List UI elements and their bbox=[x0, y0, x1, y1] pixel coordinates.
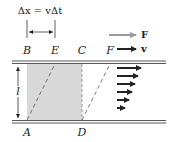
point-label-d: D bbox=[77, 126, 87, 139]
point-label-f: F bbox=[105, 44, 114, 57]
velocity-label: v bbox=[140, 43, 148, 54]
point-label-a: A bbox=[22, 126, 31, 139]
point-label-c: C bbox=[78, 44, 87, 57]
velocity-legend: v bbox=[117, 43, 148, 54]
top-plate bbox=[12, 61, 166, 64]
thickness-label: l bbox=[16, 85, 20, 98]
thickness-dimension: l bbox=[16, 67, 20, 118]
force-label: F bbox=[141, 29, 148, 40]
fluid-element-abcd bbox=[27, 64, 82, 120]
deformed-edge-df bbox=[82, 64, 110, 120]
velocity-profile-arrows bbox=[117, 68, 141, 108]
force-legend: F bbox=[109, 29, 148, 40]
fluid-shear-diagram: Δx = vΔt F v B E C F l bbox=[0, 0, 174, 142]
bottom-plate bbox=[12, 121, 166, 124]
displacement-bracket bbox=[27, 20, 55, 38]
point-label-e: E bbox=[50, 44, 59, 57]
displacement-formula: Δx = vΔt bbox=[18, 5, 63, 16]
point-label-b: B bbox=[22, 44, 31, 57]
